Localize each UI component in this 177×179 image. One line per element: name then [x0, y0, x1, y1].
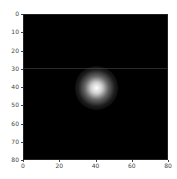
x-tick-mark [168, 160, 169, 162]
y-tick-label: 70 [5, 139, 19, 145]
y-tick-mark [21, 32, 23, 33]
y-tick-mark [21, 87, 23, 88]
y-tick-label: 40 [5, 84, 19, 90]
y-tick-label: 10 [5, 29, 19, 35]
x-tick-mark [23, 160, 24, 162]
gaussian-blob [75, 66, 119, 110]
y-tick-label: 0 [5, 11, 19, 17]
x-tick-mark [132, 160, 133, 162]
y-tick-mark [21, 142, 23, 143]
y-tick-label: 30 [5, 66, 19, 72]
y-tick-label: 60 [5, 121, 19, 127]
y-tick-mark [21, 14, 23, 15]
image-axes [23, 14, 168, 160]
figure: 01020304050607080 020406080 [0, 0, 177, 179]
x-tick-label: 60 [124, 163, 140, 169]
y-tick-label: 50 [5, 102, 19, 108]
x-tick-label: 20 [51, 163, 67, 169]
x-tick-label: 80 [160, 163, 176, 169]
x-tick-label: 0 [15, 163, 31, 169]
y-tick-mark [21, 105, 23, 106]
y-tick-mark [21, 51, 23, 52]
x-tick-label: 40 [88, 163, 104, 169]
y-tick-mark [21, 124, 23, 125]
x-tick-mark [96, 160, 97, 162]
y-tick-label: 20 [5, 48, 19, 54]
x-tick-mark [59, 160, 60, 162]
y-tick-mark [21, 69, 23, 70]
